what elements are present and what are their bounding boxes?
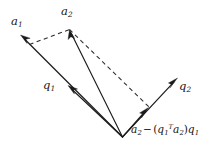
residual-term1-sub: 2 — [138, 129, 142, 137]
label-q1-base: q — [43, 78, 50, 92]
vector-a2 — [68, 30, 123, 138]
vector-diagram-figure: a1 a2 q1 q2 a2−(q1Ta2)q1 — [0, 0, 209, 147]
residual-minus-sign: − — [142, 123, 153, 135]
vector-a1-arrowhead — [21, 35, 31, 43]
label-residual-expression: a2−(q1Ta2)q1 — [131, 124, 199, 135]
label-a2-sub: 2 — [68, 10, 73, 19]
label-q2: q2 — [179, 81, 191, 93]
dashed-projection-line — [30, 30, 70, 45]
vector-a1 — [21, 35, 123, 137]
residual-term4-base: q — [188, 123, 195, 135]
residual-term4-sub: 1 — [195, 129, 199, 137]
label-a1-base: a — [11, 14, 18, 28]
label-q2-base: q — [179, 79, 186, 93]
label-a2: a2 — [61, 6, 73, 18]
vector-q1 — [68, 86, 123, 138]
label-a1-sub: 1 — [18, 20, 23, 29]
residual-term3-sub: 2 — [179, 129, 183, 137]
vector-a2-shaft — [71, 33, 122, 137]
residual-term2-sup: T — [169, 123, 173, 131]
label-q1: q1 — [43, 80, 55, 92]
label-a2-base: a — [61, 4, 68, 18]
vector-q1-shaft — [72, 89, 123, 137]
label-q2-sub: 2 — [187, 85, 192, 94]
label-q1-sub: 1 — [51, 84, 56, 93]
residual-term1-base: a — [131, 123, 137, 135]
label-a1: a1 — [11, 16, 23, 28]
